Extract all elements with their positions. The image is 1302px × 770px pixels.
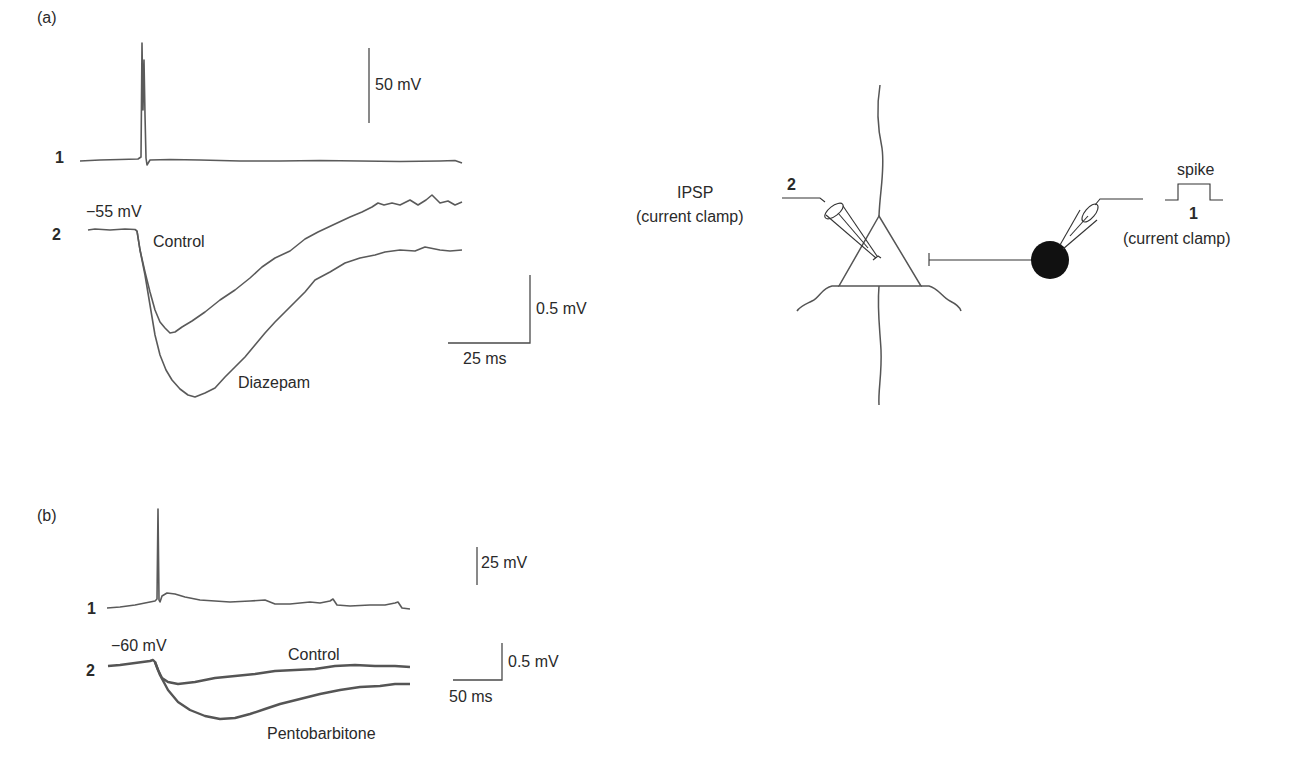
ipsp-label: IPSP bbox=[677, 184, 713, 201]
electrode-1-mode: (current clamp) bbox=[1123, 230, 1231, 247]
spike-label: spike bbox=[1177, 161, 1214, 178]
panel-a-control-label: Control bbox=[153, 233, 205, 250]
panel-a-diazepam-label: Diazepam bbox=[238, 374, 310, 391]
panel-a-spike-trace bbox=[80, 43, 462, 165]
basal-dendrite-left bbox=[797, 286, 839, 311]
panel-b-scale-bar-ipsp bbox=[453, 643, 502, 680]
panel-a-diazepam-trace bbox=[137, 231, 462, 397]
interneuron-soma bbox=[1031, 241, 1069, 279]
panel-a-scale-50mv: 50 mV bbox=[375, 76, 422, 93]
figure: (a) 1 50 mV −55 mV 2 Control Diazepam 0.… bbox=[0, 0, 1302, 770]
panel-b-trace1-label: 1 bbox=[87, 600, 96, 617]
panel-b-spike-trace bbox=[107, 509, 410, 609]
panel-a-control-trace bbox=[88, 195, 462, 333]
electrode-1-number: 1 bbox=[1189, 205, 1198, 222]
basal-dendrite-right bbox=[921, 286, 961, 311]
panel-a-scale-bar-ipsp bbox=[448, 275, 530, 343]
panel-a-trace2-label: 2 bbox=[52, 226, 61, 243]
panel-b-resting-potential: −60 mV bbox=[111, 637, 167, 654]
panel-b-scale-50ms: 50 ms bbox=[449, 688, 493, 705]
apical-dendrite bbox=[878, 85, 883, 216]
panel-a-label: (a) bbox=[37, 9, 57, 26]
panel-b-pentobarbitone-label: Pentobarbitone bbox=[267, 725, 376, 742]
panel-a-resting-potential: −55 mV bbox=[86, 203, 142, 220]
panel-b-scale-25mv: 25 mV bbox=[481, 554, 528, 571]
spike-pulse-icon bbox=[1165, 184, 1223, 200]
electrode-2-icon bbox=[782, 198, 881, 260]
panel-b-label: (b) bbox=[37, 507, 57, 524]
panel-b-control-trace bbox=[108, 660, 410, 684]
panel-a: (a) 1 50 mV −55 mV 2 Control Diazepam 0.… bbox=[37, 9, 587, 397]
axon bbox=[878, 286, 881, 405]
pyramidal-cell-soma bbox=[839, 216, 921, 286]
panel-a-trace1-label: 1 bbox=[55, 149, 64, 166]
electrode-2-mode: (current clamp) bbox=[636, 208, 744, 225]
panel-b-scale-05mv: 0.5 mV bbox=[508, 653, 559, 670]
panel-a-scale-05mv: 0.5 mV bbox=[536, 300, 587, 317]
panel-b-control-label: Control bbox=[288, 646, 340, 663]
panel-b-trace2-label: 2 bbox=[86, 662, 95, 679]
panel-b: (b) 1 25 mV −60 mV 2 Control Pentobarbit… bbox=[37, 507, 559, 742]
recording-schematic: IPSP 2 (current clamp) spike 1 (current … bbox=[636, 85, 1231, 405]
panel-a-scale-25ms: 25 ms bbox=[463, 350, 507, 367]
electrode-2-number: 2 bbox=[787, 176, 796, 193]
